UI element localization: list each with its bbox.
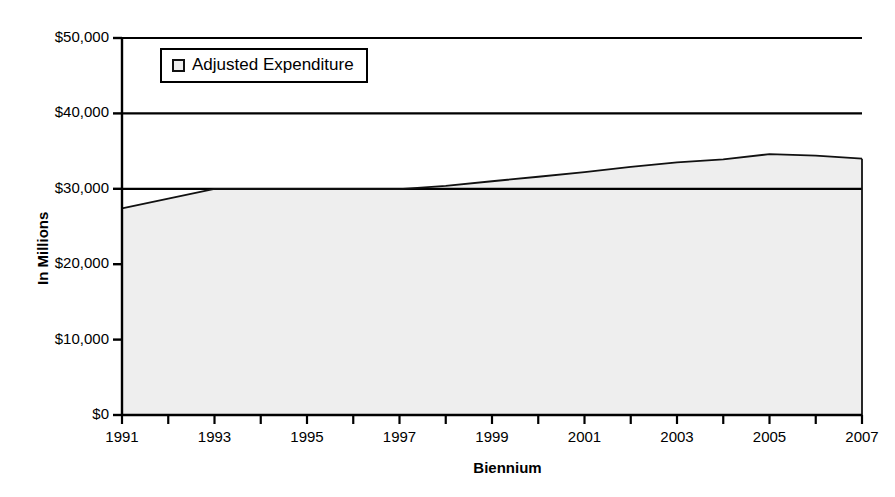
- x-axis-tick-label: 2007: [832, 428, 892, 445]
- y-axis-tick-label: $20,000: [29, 254, 109, 271]
- area-fill: [122, 154, 862, 415]
- x-axis-tick-label: 2005: [740, 428, 800, 445]
- chart-legend: Adjusted Expenditure: [160, 48, 368, 83]
- x-axis-tick-label: 1991: [92, 428, 152, 445]
- x-axis-tick-label: 1999: [462, 428, 522, 445]
- x-axis-tick-label: 1997: [370, 428, 430, 445]
- x-axis-title: Biennium: [60, 459, 895, 476]
- x-axis-tick-label: 1993: [185, 428, 245, 445]
- x-axis-tick-label: 1995: [277, 428, 337, 445]
- y-axis-tick-label: $30,000: [29, 179, 109, 196]
- legend-swatch-icon: [172, 59, 185, 72]
- y-axis-tick-label: $40,000: [29, 103, 109, 120]
- y-axis-tick-label: $0: [29, 405, 109, 422]
- y-axis-tick-label: $10,000: [29, 330, 109, 347]
- x-axis-tick-label: 2003: [647, 428, 707, 445]
- y-axis-tick-label: $50,000: [29, 28, 109, 45]
- chart-container: In Millions Biennium $0$10,000$20,000$30…: [0, 0, 895, 497]
- area-chart-svg: [0, 0, 895, 497]
- x-axis-tick-label: 2001: [555, 428, 615, 445]
- y-axis-title: In Millions: [34, 212, 51, 285]
- legend-label: Adjusted Expenditure: [192, 55, 354, 75]
